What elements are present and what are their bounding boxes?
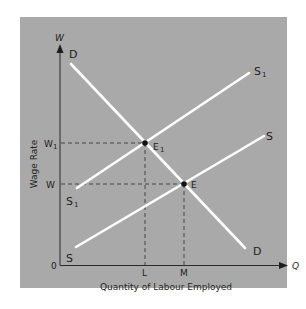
- demand-label-start: D: [69, 48, 77, 61]
- svg-text:S: S: [254, 65, 261, 78]
- curves: [71, 64, 264, 248]
- y-tick-w1: W 1: [44, 139, 57, 151]
- equilibrium-point-e1: [142, 140, 148, 146]
- y-tick-w: W: [46, 180, 55, 190]
- supply-s-label-end: S: [266, 130, 273, 143]
- x-axis-label: Quantity of Labour Employed: [100, 282, 232, 292]
- svg-text:1: 1: [74, 201, 78, 209]
- origin-label: 0: [51, 261, 57, 271]
- supply-s1-label-start: S 1: [66, 195, 78, 209]
- axes: [60, 52, 280, 266]
- svg-text:1: 1: [262, 71, 266, 79]
- svg-text:W: W: [46, 180, 55, 190]
- supply-curve-s: [76, 136, 264, 247]
- y-axis-arrow-icon: [57, 44, 64, 53]
- svg-text:E: E: [153, 142, 159, 152]
- x-tick-l: L: [142, 268, 147, 278]
- demand-label-end: D: [253, 245, 261, 258]
- y-axis-symbol: W: [55, 33, 65, 43]
- equilibrium-label-e: E: [191, 180, 197, 190]
- x-axis-symbol: Q: [292, 261, 299, 271]
- svg-text:1: 1: [53, 143, 57, 151]
- y-axis-label: Wage Rate: [29, 139, 39, 188]
- x-axis-arrow-icon: [279, 262, 288, 269]
- labour-market-diagram: W Q 0 Wage Rate Quantity of Labour Emplo…: [0, 0, 306, 309]
- guide-lines: [61, 143, 184, 265]
- supply-s-label-start: S: [66, 252, 73, 265]
- supply-curve-s1: [77, 73, 249, 188]
- supply-s1-label-end: S 1: [254, 65, 266, 79]
- svg-text:S: S: [66, 195, 73, 208]
- svg-text:W: W: [44, 139, 53, 149]
- equilibrium-point-e: [181, 181, 187, 187]
- svg-text:1: 1: [160, 146, 164, 154]
- x-tick-m: M: [180, 268, 188, 278]
